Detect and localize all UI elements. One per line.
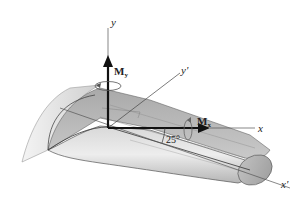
wing-drawing — [0, 0, 307, 203]
mx-subscript: x — [207, 121, 211, 129]
label-x-prime-axis: x' — [281, 179, 288, 190]
my-symbol: M — [114, 65, 124, 77]
label-angle: 25° — [166, 135, 180, 145]
label-mx: Mx — [197, 112, 211, 129]
my-arrowhead — [103, 55, 113, 67]
label-my: My — [114, 62, 128, 79]
mx-symbol: M — [197, 115, 207, 127]
label-y-axis: y — [111, 17, 116, 28]
label-y-prime-axis: y' — [181, 65, 188, 76]
label-x-axis: x — [258, 123, 263, 134]
my-subscript: y — [124, 71, 128, 79]
wing-diagram: y y' x x' My Mx 25° — [0, 0, 307, 203]
